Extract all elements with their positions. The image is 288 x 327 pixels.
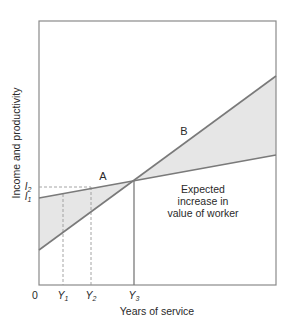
annotation-line-1: Expected bbox=[181, 183, 225, 195]
svg-text:Y1: Y1 bbox=[58, 289, 69, 302]
x-tick-y1: Y1 bbox=[58, 289, 69, 302]
region-label-b: B bbox=[180, 125, 187, 137]
annotation-line-3: value of worker bbox=[167, 207, 239, 219]
x-axis-title: Years of service bbox=[120, 305, 194, 317]
region-label-a: A bbox=[99, 170, 107, 182]
svg-text:Y3: Y3 bbox=[129, 289, 140, 302]
diagram-canvas: A B Expected increase in value of worker… bbox=[0, 0, 288, 327]
x-tick-y2: Y2 bbox=[86, 289, 97, 302]
annotation-line-2: increase in bbox=[178, 195, 229, 207]
income-line bbox=[39, 155, 276, 198]
svg-text:Y2: Y2 bbox=[86, 289, 97, 302]
productivity-line bbox=[39, 76, 276, 250]
origin-label: 0 bbox=[32, 289, 38, 301]
y-axis-title: Income and productivity bbox=[10, 87, 22, 199]
x-tick-y3: Y3 bbox=[129, 289, 140, 302]
